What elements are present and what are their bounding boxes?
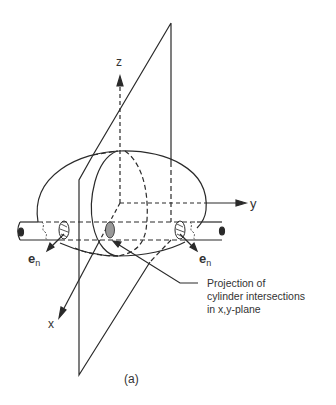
annotation-line-1: Projection of [207, 277, 265, 289]
normal-right-base: e [199, 251, 206, 266]
annotation-line-3: in x,y-plane [207, 303, 261, 315]
wavy-right [190, 222, 196, 240]
z-arrow-icon [117, 76, 123, 86]
normal-left-sub: n [35, 258, 40, 268]
leader-arrow-icon [113, 241, 121, 247]
tube-left-cap [19, 228, 24, 236]
x-arrow-icon [59, 307, 66, 318]
x-axis-label: x [48, 317, 54, 331]
y-arrow-icon [236, 200, 246, 206]
y-axis-label: y [250, 196, 257, 211]
ellipsoid-top-outline [37, 151, 206, 228]
figure-caption: (a) [124, 372, 139, 386]
annotation-leader [116, 243, 198, 283]
z-axis-label: z [116, 55, 122, 69]
annotation-line-2: cylinder intersections [207, 290, 305, 302]
intersection-right [175, 221, 185, 239]
cut-plane-outline [79, 23, 171, 375]
intersection-left [59, 221, 69, 239]
projection-patch [106, 222, 115, 238]
normal-left-arrow-icon [47, 243, 54, 251]
normal-label-left: en [28, 251, 40, 268]
intersection-right-hatch [176, 224, 184, 237]
normal-right-sub: n [206, 258, 211, 268]
normal-left-base: e [28, 251, 35, 266]
wavy-left [42, 222, 48, 240]
intersection-left-hatch [60, 224, 68, 237]
cut-plane-hidden [93, 151, 171, 262]
tube-right-cap [220, 227, 225, 235]
diagram-canvas: z y x en en Projection of cylinder inter… [0, 0, 336, 405]
normal-label-right: en [199, 251, 211, 268]
normal-right-arrow-icon [190, 243, 197, 251]
